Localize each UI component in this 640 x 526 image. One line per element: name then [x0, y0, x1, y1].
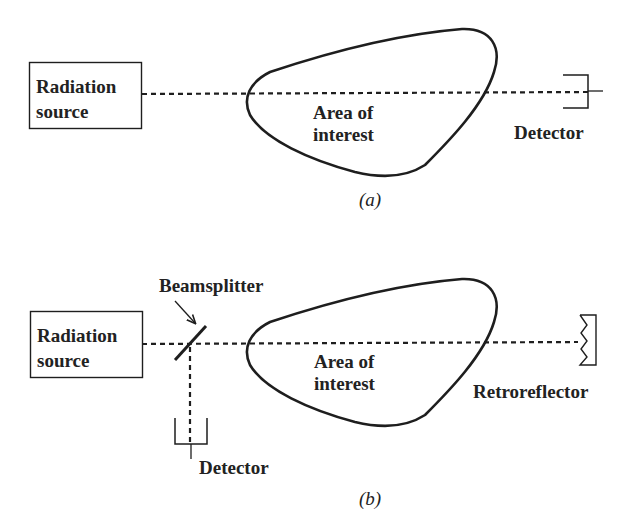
caption-a: (a)	[359, 189, 381, 211]
retroreflector-label: Retroreflector	[473, 381, 589, 402]
radiation-source-label-line2: source	[36, 101, 88, 122]
beam-path	[142, 92, 588, 94]
panel-a: Radiation source Area of interest Detect…	[30, 29, 604, 211]
detector-label: Detector	[199, 457, 269, 478]
area-of-interest-label-line2: interest	[314, 373, 376, 394]
diagram-canvas: Radiation source Area of interest Detect…	[0, 0, 640, 526]
caption-b: (b)	[359, 488, 381, 510]
area-of-interest-label-line1: Area of	[313, 102, 374, 123]
radiation-source-label-line2: source	[37, 350, 89, 371]
radiation-source-label-line1: Radiation	[37, 325, 118, 346]
panel-b: Radiation source Beamsplitter Area of in…	[31, 275, 597, 510]
area-of-interest-label-line2: interest	[313, 124, 375, 145]
detector-label: Detector	[514, 122, 584, 143]
beamsplitter-label: Beamsplitter	[159, 275, 264, 296]
area-of-interest-label-line1: Area of	[314, 351, 375, 372]
retroreflector-icon	[580, 315, 596, 365]
beamsplitter-arrow-icon	[175, 301, 195, 323]
radiation-source-label-line1: Radiation	[36, 76, 117, 97]
beam-path	[142, 342, 578, 344]
